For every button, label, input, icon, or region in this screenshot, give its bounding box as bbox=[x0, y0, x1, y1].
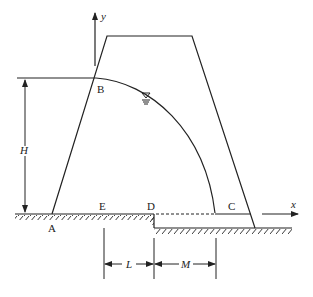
diagram-canvas: y H x A B C D E L M bbox=[0, 0, 313, 297]
m-label: M bbox=[180, 258, 191, 270]
point-b-label: B bbox=[97, 83, 104, 95]
phreatic-line bbox=[96, 78, 215, 213]
point-c-label: C bbox=[228, 200, 235, 212]
l-label: L bbox=[125, 258, 132, 270]
y-axis-label: y bbox=[100, 10, 106, 22]
h-label: H bbox=[19, 144, 29, 156]
point-d-label: D bbox=[147, 200, 155, 212]
point-a-label: A bbox=[48, 222, 56, 234]
point-e-label: E bbox=[99, 200, 106, 212]
m-dimension: M bbox=[155, 258, 215, 270]
x-axis-label: x bbox=[290, 198, 296, 210]
l-dimension: L bbox=[105, 258, 153, 270]
